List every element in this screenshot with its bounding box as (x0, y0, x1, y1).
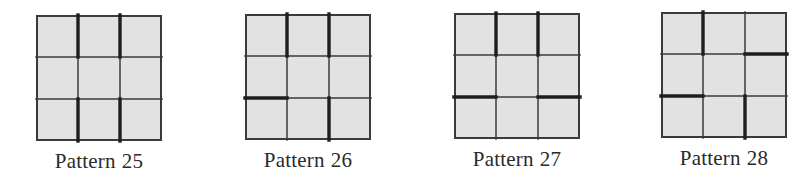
pattern-26: Pattern26 (245, 14, 405, 188)
pattern-label-number: 28 (747, 146, 768, 170)
pattern-label: Pattern28 (661, 146, 787, 171)
grid-lines (36, 15, 162, 141)
grid-lines (661, 12, 787, 138)
pattern-label-name: Pattern (680, 146, 741, 170)
pattern-25: Pattern25 (36, 15, 196, 188)
pattern-27: Pattern27 (454, 13, 614, 188)
pattern-label-number: 26 (331, 148, 352, 172)
grid-lines (454, 13, 580, 139)
pattern-grid (245, 14, 371, 140)
pattern-grid (454, 13, 580, 139)
pattern-label-number: 25 (122, 149, 143, 173)
pattern-label: Pattern26 (245, 148, 371, 173)
pattern-label: Pattern27 (454, 147, 580, 172)
pattern-28: Pattern28 (661, 12, 812, 188)
pattern-grid (661, 12, 787, 138)
pattern-label: Pattern25 (36, 149, 162, 174)
pattern-label-name: Pattern (473, 147, 534, 171)
pattern-label-name: Pattern (55, 149, 116, 173)
pattern-label-name: Pattern (264, 148, 325, 172)
pattern-grid (36, 15, 162, 141)
grid-lines (245, 14, 371, 140)
pattern-label-number: 27 (540, 147, 561, 171)
